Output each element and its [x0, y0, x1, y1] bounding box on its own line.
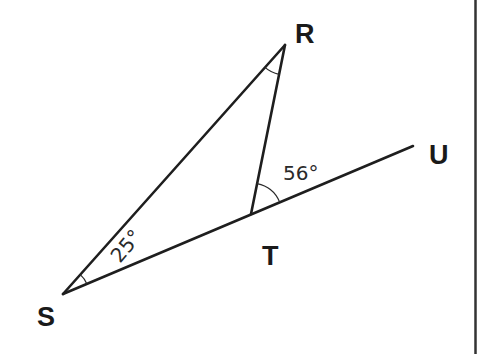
vertex-label-S: S — [37, 302, 55, 332]
vertex-label-R: R — [295, 19, 315, 49]
angle-label-RTU: 56° — [283, 161, 318, 185]
vertex-label-U: U — [429, 140, 449, 170]
triangle-diagram: R S T U 56° 25° — [0, 0, 481, 354]
background — [0, 0, 481, 354]
vertex-label-T: T — [262, 241, 279, 271]
